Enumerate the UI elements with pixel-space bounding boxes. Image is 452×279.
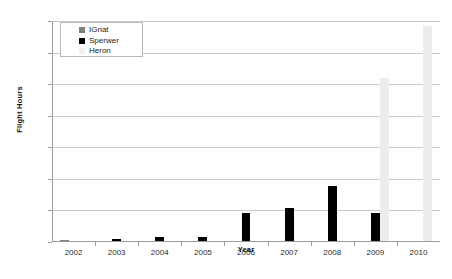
bar [285, 208, 294, 241]
bar [198, 237, 207, 241]
y-axis-line [52, 21, 53, 242]
y-tick-mark [48, 84, 52, 85]
bar [328, 186, 337, 241]
bar [371, 213, 380, 241]
x-axis-line [52, 241, 440, 242]
legend-item: Sperwer [79, 36, 142, 46]
y-tick-mark [48, 210, 52, 211]
chart-legend: IGnatSperwerHeron [60, 22, 143, 57]
legend-item: IGnat [79, 25, 142, 35]
legend-label: Heron [89, 46, 111, 56]
bar [380, 78, 389, 241]
bar [423, 26, 432, 241]
flight-hours-bar-chart: Flight Hours 01,0002,0003,0004,0005,0006… [0, 0, 452, 279]
legend-label: IGnat [89, 25, 109, 35]
legend-item: Heron [79, 46, 142, 56]
y-tick-mark [48, 53, 52, 54]
y-tick-mark [48, 116, 52, 117]
bar [60, 240, 69, 241]
bar [112, 239, 121, 241]
x-axis-title: Year [52, 245, 440, 254]
y-tick-mark [48, 147, 52, 148]
y-tick-mark [48, 179, 52, 180]
legend-label: Sperwer [89, 36, 119, 46]
y-tick-mark [48, 242, 52, 243]
bar [242, 213, 251, 241]
legend-swatch-icon [79, 38, 85, 44]
legend-swatch-icon [79, 27, 85, 33]
y-axis-title: Flight Hours [15, 60, 24, 160]
y-tick-mark [48, 21, 52, 22]
bar [155, 237, 164, 241]
legend-swatch-icon [79, 48, 85, 54]
